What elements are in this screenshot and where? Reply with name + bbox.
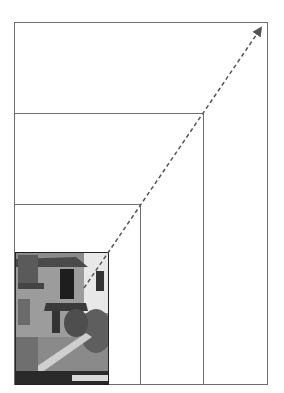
dashed-arrow-line: [84, 28, 261, 288]
scale-arrow: [0, 0, 284, 393]
